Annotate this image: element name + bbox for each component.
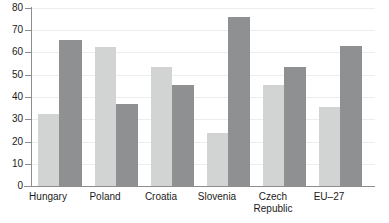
bar-slovenia-series2 bbox=[228, 17, 250, 186]
y-tick-80 bbox=[25, 8, 31, 9]
bar-czech-republic-series2 bbox=[284, 67, 306, 186]
y-tick-label-70: 70 bbox=[1, 25, 23, 35]
y-tick-50 bbox=[25, 75, 31, 76]
gridline-40 bbox=[31, 97, 375, 98]
bar-croatia-series2 bbox=[172, 85, 194, 186]
y-tick-label-60: 60 bbox=[1, 47, 23, 57]
y-tick-label-80: 80 bbox=[1, 3, 23, 13]
gridline-50 bbox=[31, 75, 375, 76]
x-axis-label-eu-27: EU–27 bbox=[290, 191, 368, 203]
y-tick-40 bbox=[25, 97, 31, 98]
plot-area bbox=[31, 8, 375, 186]
y-tick-0 bbox=[25, 186, 31, 187]
gridline-70 bbox=[31, 30, 375, 31]
y-tick-label-30: 30 bbox=[1, 114, 23, 124]
y-tick-label-40: 40 bbox=[1, 92, 23, 102]
y-tick-label-50: 50 bbox=[1, 70, 23, 80]
bar-croatia-series1 bbox=[151, 67, 172, 186]
bar-hungary-series1 bbox=[38, 114, 59, 186]
bar-eu-27-series2 bbox=[340, 46, 362, 186]
gridline-80 bbox=[31, 8, 375, 9]
bar-poland-series2 bbox=[116, 104, 138, 186]
x-axis-line bbox=[24, 186, 375, 187]
bar-chart: 80 70 60 50 40 30 20 10 0 Hungary Poland… bbox=[0, 0, 389, 223]
bar-poland-series1 bbox=[95, 47, 116, 186]
y-tick-10 bbox=[25, 164, 31, 165]
y-tick-70 bbox=[25, 30, 31, 31]
y-tick-30 bbox=[25, 119, 31, 120]
y-tick-20 bbox=[25, 142, 31, 143]
bar-czech-republic-series1 bbox=[263, 85, 284, 186]
y-tick-label-20: 20 bbox=[1, 137, 23, 147]
y-axis-line bbox=[31, 7, 32, 187]
y-tick-60 bbox=[25, 52, 31, 53]
bar-hungary-series2 bbox=[59, 40, 82, 186]
y-tick-label-0: 0 bbox=[1, 181, 23, 191]
gridline-60 bbox=[31, 52, 375, 53]
y-tick-label-10: 10 bbox=[1, 159, 23, 169]
bar-eu-27-series1 bbox=[319, 107, 340, 186]
bar-slovenia-series1 bbox=[207, 133, 228, 186]
